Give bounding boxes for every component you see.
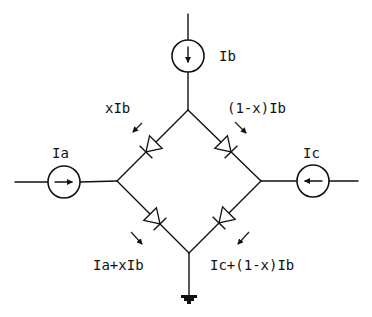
label-one-minus-x-ib: (1-x)Ib: [227, 100, 286, 116]
arrow-ia-plus-x-ib-icon: [131, 232, 142, 244]
label-ia: Ia: [52, 145, 69, 161]
arrow-ic-plus-one-minus-x-ib-icon: [238, 232, 249, 244]
arrow-x-ib-icon: [133, 123, 142, 132]
label-x-ib: xIb: [105, 100, 130, 116]
current-source-ic: [297, 165, 329, 197]
label-ic: Ic: [303, 145, 320, 161]
label-ic-plus-one-minus-x-ib: Ic+(1-x)Ib: [210, 257, 294, 273]
current-source-ib: [172, 40, 204, 72]
label-ia-plus-x-ib: Ia+xIb: [93, 257, 144, 273]
current-source-ia: [48, 166, 80, 198]
bridge-wires: [117, 110, 261, 253]
arrow-one-minus-x-ib-icon: [235, 122, 246, 133]
diode-bridge-diagram: Ib Ia: [0, 0, 372, 317]
label-ib: Ib: [219, 48, 236, 64]
ground-icon: [181, 295, 197, 304]
